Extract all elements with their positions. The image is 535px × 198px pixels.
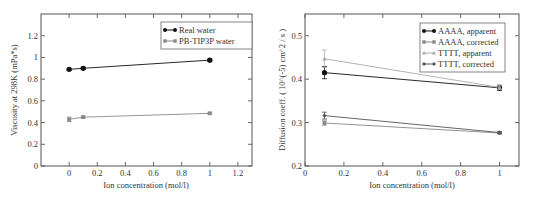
legend-label: Real water	[179, 25, 216, 35]
x-tick-label: 0.2	[92, 168, 103, 178]
y-tick-label: 1.2	[27, 31, 38, 41]
diffusion-chart: 00.20.40.60.81 0.20.30.40.5 Ion concentr…	[277, 14, 519, 190]
y-tick-label: 0.2	[27, 139, 38, 149]
series-line	[324, 73, 499, 88]
data-point-square	[208, 111, 212, 115]
data-point-square	[432, 40, 435, 43]
y-axis-label: Diffusion coeff. ( 10^(-5) cm^2 / s )	[277, 29, 287, 151]
x-tick-label: 0.4	[120, 168, 131, 178]
data-point-square	[422, 40, 425, 43]
data-point-circle	[322, 70, 327, 75]
data-point-circle	[422, 29, 426, 33]
series-pb-tip3p-water	[67, 111, 213, 121]
x-tick-label: 0.8	[176, 168, 187, 178]
x-tick-label: 0.6	[148, 168, 159, 178]
data-point-triangle	[322, 57, 326, 61]
data-point-diamond	[322, 113, 326, 117]
legend-label: TTTT, corrected	[438, 59, 495, 69]
x-tick-label: 0	[303, 168, 307, 178]
x-axis-label: Ion concentration (mol/l)	[103, 180, 189, 190]
data-point-square	[81, 115, 85, 119]
chart-figure: 00.20.40.60.811.2 00.20.40.60.811.2 Ion …	[0, 0, 535, 198]
x-tick-label: 0.6	[416, 168, 427, 178]
legend-label: AAAA, corrected	[438, 37, 499, 47]
y-tick-label: 0.4	[291, 74, 302, 84]
data-point-circle	[207, 58, 212, 63]
data-point-circle	[173, 28, 177, 32]
y-tick-label: 0.2	[291, 161, 302, 171]
y-ticks: 00.20.40.60.811.2	[27, 31, 252, 171]
x-axis-label: Ion concentration (mol/l)	[369, 180, 455, 190]
data-point-square	[163, 39, 166, 42]
viscosity-chart: 00.20.40.60.811.2 00.20.40.60.811.2 Ion …	[9, 14, 252, 190]
x-tick-label: 1	[208, 168, 212, 178]
x-tick-label: 1.2	[233, 168, 244, 178]
y-tick-label: 0.6	[27, 96, 38, 106]
data-point-circle	[432, 29, 436, 33]
legend-label: AAAA, apparent	[438, 26, 497, 36]
y-tick-label: 0.4	[27, 118, 38, 128]
data-point-circle	[81, 66, 86, 71]
data-point-circle	[163, 28, 167, 32]
legend: Real waterPB-TIP3P water	[161, 22, 252, 49]
x-tick-label: 1	[497, 168, 501, 178]
series-line	[69, 113, 210, 119]
y-tick-label: 0.8	[27, 74, 38, 84]
series-aaaa-corrected	[322, 121, 502, 135]
legend-label: PB-TIP3P water	[179, 36, 235, 46]
y-tick-label: 0.5	[291, 31, 302, 41]
x-tick-label: 0.2	[339, 168, 350, 178]
legend: AAAA, apparentAAAA, correctedTTTT, appar…	[420, 23, 505, 72]
series-group	[67, 58, 213, 122]
series-real-water	[67, 58, 213, 72]
x-tick-label: 0.8	[455, 168, 466, 178]
x-tick-label: 0	[67, 168, 71, 178]
data-point-circle	[67, 67, 72, 72]
series-line	[69, 60, 210, 69]
y-tick-label: 0.3	[291, 118, 302, 128]
y-tick-label: 0	[34, 161, 38, 171]
y-tick-label: 1	[34, 52, 38, 62]
data-point-square	[67, 117, 71, 121]
y-axis-label: Viscosity at 298K (mPa*s)	[9, 44, 19, 135]
data-point-square	[173, 39, 176, 42]
data-point-square	[323, 121, 327, 125]
legend-label: TTTT, apparent	[438, 48, 492, 58]
x-tick-label: 0.4	[378, 168, 389, 178]
